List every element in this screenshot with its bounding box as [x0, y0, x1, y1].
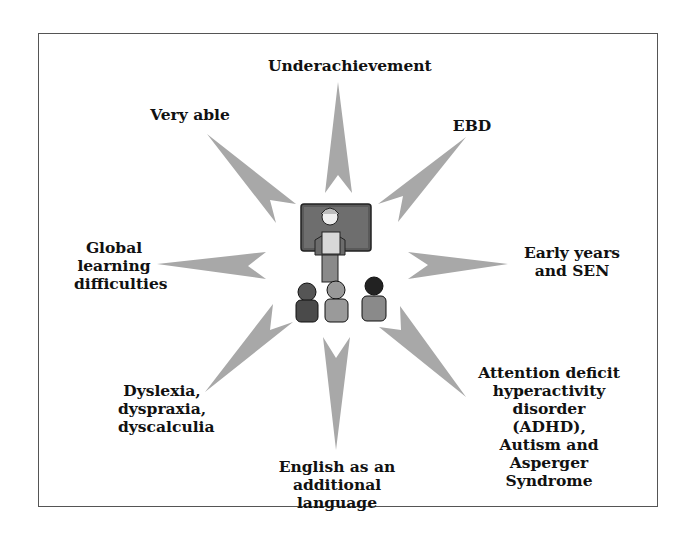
pupil-middle — [325, 281, 348, 322]
arrow-eal — [323, 337, 350, 450]
label-early-years: Early years and SEN — [522, 244, 622, 280]
arrow-very-able — [207, 134, 296, 223]
label-underachievement: Underachievement — [268, 57, 410, 75]
label-very-able: Very able — [150, 106, 230, 124]
label-dyslexia: Dyslexia, dyspraxia, dyscalculia — [118, 382, 206, 436]
pupil-left — [296, 283, 318, 322]
arrow-dyslexia — [205, 304, 293, 392]
arrow-global-learning — [157, 252, 266, 279]
teacher-with-pupils-illustration — [296, 204, 386, 322]
arrow-adhd — [379, 306, 466, 397]
label-ebd: EBD — [447, 117, 497, 135]
arrow-ebd — [378, 137, 466, 222]
arrow-underachievement — [325, 82, 352, 193]
pupil-right — [362, 277, 386, 321]
arrow-early-years — [408, 252, 508, 279]
label-global-learning: Global learning difficulties — [74, 239, 154, 293]
label-adhd: Attention deficit hyperactivity disorder… — [474, 364, 624, 490]
label-eal: English as an additional language — [262, 458, 412, 512]
